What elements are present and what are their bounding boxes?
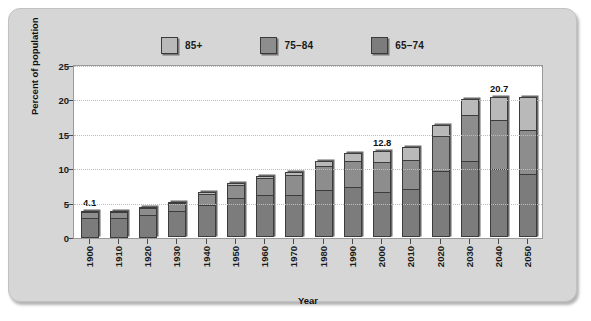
x-axis-tick-mark (89, 239, 90, 244)
bar-column[interactable]: 20.7 (490, 67, 508, 239)
gridline (74, 66, 542, 67)
bar-segment[interactable] (461, 115, 479, 162)
bar-segment[interactable] (315, 190, 333, 237)
legend-label: 85+ (185, 40, 203, 51)
legend-swatch-icon (161, 37, 178, 54)
bar-segment[interactable] (168, 211, 186, 237)
y-axis-title: Percent of population (29, 17, 40, 115)
bar-column[interactable] (432, 67, 450, 239)
legend-label: 75–84 (284, 40, 313, 51)
bar-segment[interactable] (285, 195, 303, 237)
stacked-bar[interactable] (285, 172, 303, 239)
x-axis-tick-label: 2030 (463, 246, 474, 267)
stacked-bar[interactable] (490, 97, 508, 239)
bar-column[interactable] (402, 67, 420, 239)
gridline (74, 204, 542, 205)
x-axis: Year 19001910192019301940195019601970198… (73, 239, 543, 285)
gridline (74, 135, 542, 136)
bar-segment[interactable] (432, 136, 450, 172)
bar-segment[interactable] (373, 192, 391, 237)
legend-item: 65–74 (371, 37, 424, 54)
stacked-bar[interactable] (432, 125, 450, 239)
x-axis-tick-label: 2050 (522, 246, 533, 267)
bar-value-label: 20.7 (490, 83, 509, 94)
x-axis-tick-mark (440, 239, 441, 244)
bar-column[interactable] (227, 67, 245, 239)
x-axis-tick-mark (527, 239, 528, 244)
bar-column[interactable] (285, 67, 303, 239)
chart-panel: 85+75–8465–74 Percent of population 0510… (8, 8, 577, 302)
x-axis-tick-mark (293, 239, 294, 244)
stacked-bar[interactable] (168, 202, 186, 239)
stacked-bar[interactable] (519, 97, 537, 239)
bar-segment[interactable] (519, 97, 537, 131)
legend-swatch-icon (371, 37, 388, 54)
bar-segment[interactable] (519, 174, 537, 237)
x-axis-tick-label: 1980 (317, 246, 328, 267)
bar-column[interactable] (519, 67, 537, 239)
x-axis-tick-mark (176, 239, 177, 244)
x-axis-tick-mark (264, 239, 265, 244)
bar-segment[interactable] (344, 187, 362, 237)
plot-area-wrapper: 4.112.820.7 (73, 65, 543, 239)
stacked-bar[interactable] (110, 211, 128, 239)
bar-segment[interactable] (110, 218, 128, 238)
legend-item: 85+ (161, 37, 203, 54)
x-axis-tick-mark (498, 239, 499, 244)
x-axis-tick-label: 1930 (171, 246, 182, 267)
bar-segment[interactable] (227, 185, 245, 199)
bar-segment[interactable] (139, 215, 157, 238)
stacked-bar[interactable] (139, 207, 157, 239)
bar-column[interactable] (461, 67, 479, 239)
x-axis-tick-label: 1960 (259, 246, 270, 267)
bar-segment[interactable] (256, 178, 274, 196)
bar-segment[interactable] (81, 218, 99, 238)
stacked-bar[interactable] (402, 147, 420, 239)
x-axis-tick-label: 1900 (83, 246, 94, 267)
bar-column[interactable] (168, 67, 186, 239)
bar-segment[interactable] (402, 189, 420, 237)
bar-column[interactable] (198, 67, 216, 239)
stacked-bar[interactable] (227, 183, 245, 239)
bar-segment[interactable] (461, 161, 479, 237)
x-axis-tick-label: 2010 (405, 246, 416, 267)
x-axis-tick-mark (410, 239, 411, 244)
x-axis-tick-mark (381, 239, 382, 244)
stacked-bar[interactable] (315, 161, 333, 239)
x-axis-tick-mark (323, 239, 324, 244)
x-axis-tick-label: 1920 (142, 246, 153, 267)
bar-column[interactable]: 12.8 (373, 67, 391, 239)
x-axis-tick-label: 2020 (434, 246, 445, 267)
bar-column[interactable]: 4.1 (81, 67, 99, 239)
bar-column[interactable] (315, 67, 333, 239)
bar-column[interactable] (110, 67, 128, 239)
bar-segment[interactable] (519, 130, 537, 175)
bar-column[interactable] (344, 67, 362, 239)
bar-segment[interactable] (490, 120, 508, 170)
bar-segment[interactable] (344, 161, 362, 189)
x-axis-tick-label: 1910 (112, 246, 123, 267)
bar-segment[interactable] (402, 147, 420, 161)
x-axis-tick-label: 2000 (376, 246, 387, 267)
x-axis-tick-mark (147, 239, 148, 244)
gridline (74, 100, 542, 101)
bar-segment[interactable] (198, 205, 216, 237)
bar-segment[interactable] (402, 160, 420, 190)
stacked-bar[interactable] (256, 176, 274, 239)
x-axis-tick-mark (469, 239, 470, 244)
stacked-bar[interactable] (198, 192, 216, 239)
bar-value-label: 4.1 (83, 197, 96, 208)
bar-segment[interactable] (256, 195, 274, 237)
chart-legend: 85+75–8465–74 (9, 33, 576, 57)
x-axis-tick-label: 1940 (200, 246, 211, 267)
bar-segment[interactable] (285, 175, 303, 196)
x-axis-tick-mark (118, 239, 119, 244)
bar-column[interactable] (256, 67, 274, 239)
bar-segment[interactable] (373, 162, 391, 193)
x-axis-tick-label: 1990 (346, 246, 357, 267)
bar-column[interactable] (139, 67, 157, 239)
stacked-bar[interactable] (81, 211, 99, 239)
stacked-bar[interactable] (344, 153, 362, 239)
bar-segment[interactable] (461, 99, 479, 116)
stacked-bar[interactable] (373, 151, 391, 239)
